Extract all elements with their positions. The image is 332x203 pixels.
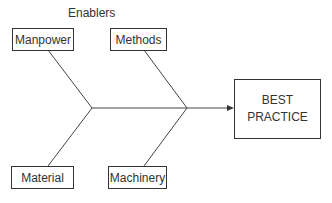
effect-line-2: PRACTICE	[247, 109, 308, 126]
arrow-head-icon	[227, 105, 234, 111]
cause-machinery: Machinery	[108, 166, 167, 189]
cause-manpower: Manpower	[12, 28, 74, 51]
diagram-title: Enablers	[68, 6, 115, 20]
effect-line-1: BEST	[262, 92, 293, 109]
effect-best-practice: BEST PRACTICE	[234, 79, 321, 139]
cause-methods: Methods	[110, 28, 167, 51]
cause-material: Material	[11, 166, 74, 189]
